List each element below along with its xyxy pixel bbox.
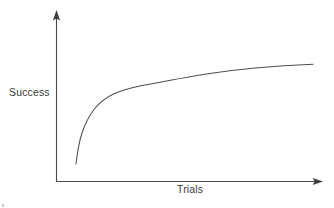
corner-artifact: [2, 204, 4, 207]
learning-curve-line: [76, 64, 313, 164]
learning-curve-figure: Success Trials: [0, 0, 334, 208]
chart-canvas: [0, 0, 334, 208]
x-axis-label: Trials: [177, 183, 203, 195]
y-axis-label: Success: [9, 86, 50, 98]
